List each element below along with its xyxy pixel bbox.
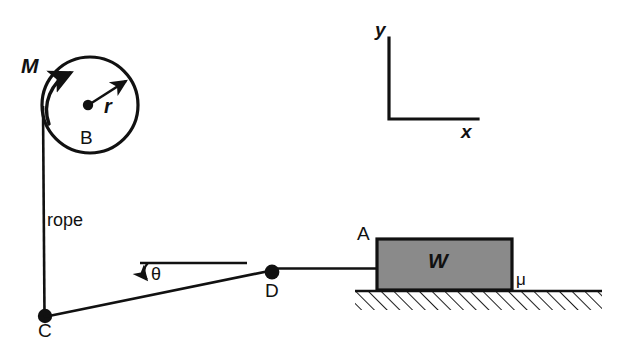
label-point-d: D — [265, 281, 279, 300]
point-d-dot — [265, 265, 280, 280]
angle-theta-arc — [144, 263, 148, 280]
label-radius: r — [104, 96, 112, 116]
label-flywheel-body: B — [80, 128, 93, 147]
label-flywheel-mass: M — [21, 55, 39, 76]
rope-vertical-segment — [43, 106, 45, 316]
pulley-center-dot — [83, 100, 93, 110]
label-point-a: A — [357, 224, 370, 243]
label-point-c: C — [38, 321, 52, 340]
label-rope: rope — [47, 211, 83, 229]
ground-hatching — [355, 292, 602, 310]
coordinate-axes — [389, 38, 478, 119]
diagram-canvas — [0, 0, 638, 356]
label-angle-theta: θ — [151, 265, 161, 283]
label-block-weight: W — [428, 250, 448, 271]
physics-diagram-figure: M r B rope C θ D A W μ y x — [0, 0, 638, 356]
label-axis-x: x — [461, 122, 472, 141]
label-friction-coefficient: μ — [516, 271, 526, 288]
label-axis-y: y — [375, 20, 386, 39]
